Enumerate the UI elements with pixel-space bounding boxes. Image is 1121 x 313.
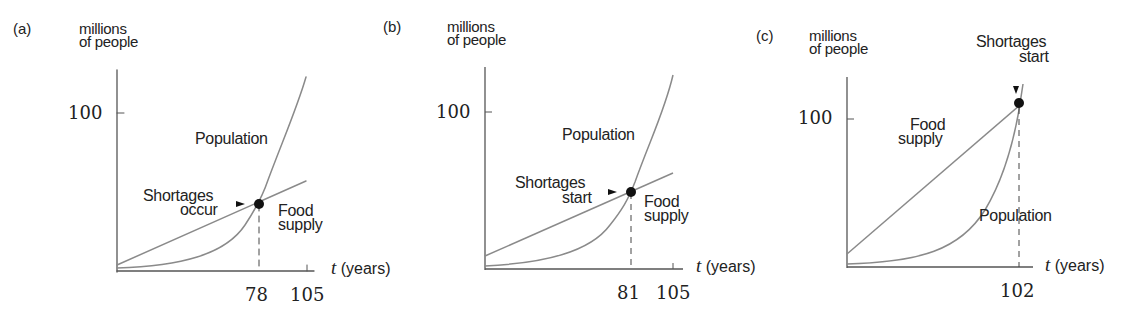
panel-a-plot	[117, 70, 314, 272]
panel-a-intersection-dot	[254, 199, 264, 209]
panel-c-shortages-line1: Shortages	[976, 35, 1046, 49]
panel-a-population-label: Population	[195, 132, 268, 146]
panel-b-xunit: (years)	[706, 258, 756, 275]
panel-a-population-curve	[117, 77, 306, 268]
figure-canvas	[0, 0, 1121, 313]
panel-c-letter: (c)	[756, 27, 774, 44]
panel-c-plot	[847, 77, 1033, 268]
panel-c-xunit: (years)	[1055, 257, 1105, 274]
panel-a-xtick2-label: 105	[290, 284, 324, 305]
panel-c-food-line2: supply	[898, 132, 942, 146]
panel-a-xtick1-label: 78	[245, 284, 268, 305]
panel-a-ylabel-line2: of people	[79, 35, 138, 48]
panel-b-xtick2-label: 105	[656, 282, 690, 303]
panel-b-ytick-label: 100	[436, 101, 470, 122]
panel-c-arrow-icon	[1013, 86, 1019, 94]
panel-b-xtick1-label: 81	[617, 282, 640, 303]
panel-c-xaxis-label: t (years)	[1045, 254, 1105, 276]
panel-a-xunit: (years)	[341, 260, 391, 277]
panel-b-xaxis-label: t (years)	[696, 255, 756, 277]
panel-b-shortages-line1: Shortages	[515, 176, 585, 190]
panel-b-letter: (b)	[383, 18, 401, 35]
panel-b-ylabel-line2: of people	[447, 33, 506, 46]
panel-c-ytick-label: 100	[798, 107, 832, 128]
panel-c-intersection-dot	[1014, 98, 1024, 108]
panel-b-arrow-icon	[608, 189, 617, 195]
panel-b-population-curve	[485, 75, 673, 266]
panel-b-xvar: t	[696, 255, 701, 276]
panel-b-intersection-dot	[626, 187, 636, 197]
panel-c-population-curve	[847, 84, 1023, 264]
panel-c-population-label: Population	[979, 209, 1052, 223]
panel-a-shortages-line2: occur	[180, 203, 218, 217]
panel-c-xtick1-label: 102	[1000, 280, 1034, 301]
panel-c-shortages-line2: start	[1019, 50, 1049, 64]
panel-c-xvar: t	[1045, 254, 1050, 275]
panel-b-food-line2: supply	[644, 209, 688, 223]
panel-a-letter: (a)	[13, 20, 31, 37]
panel-a-arrow-icon	[236, 201, 245, 207]
panel-a-xaxis-label: t (years)	[331, 257, 391, 279]
panel-a-xvar: t	[331, 257, 336, 278]
panel-b-population-label: Population	[562, 128, 635, 142]
panel-b-shortages-line2: start	[562, 191, 592, 205]
panel-c-ylabel-line2: of people	[809, 42, 868, 55]
panel-a-ytick-label: 100	[68, 102, 102, 123]
panel-a-food-line2: supply	[278, 218, 322, 232]
panel-b-plot	[485, 67, 683, 270]
